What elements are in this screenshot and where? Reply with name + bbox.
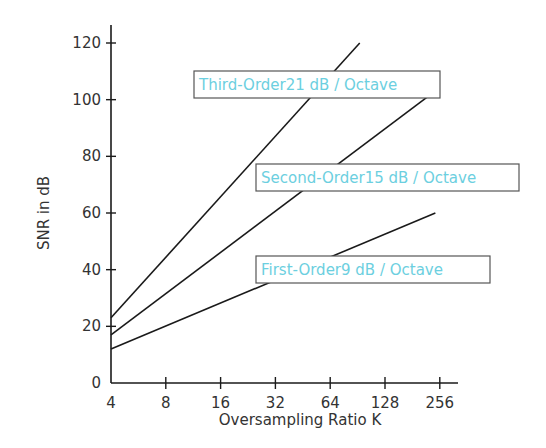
y-tick-label: 100: [72, 91, 101, 109]
y-axis-label: SNR in dB: [35, 176, 53, 250]
series-line-second-order: [111, 97, 427, 335]
x-tick-label: 256: [425, 394, 454, 412]
annotations: Third-Order21 dB / OctaveSecond-Order15 …: [194, 71, 519, 283]
annotation-text-third-order: Third-Order21 dB / Octave: [198, 76, 397, 94]
x-axis-label: Oversampling Ratio K: [219, 411, 383, 429]
x-tick-label: 128: [371, 394, 400, 412]
y-tick-label: 40: [82, 261, 101, 279]
y-tick-label: 80: [82, 147, 101, 165]
x-tick-label: 8: [161, 394, 171, 412]
annotation-text-first-order: First-Order9 dB / Octave: [261, 261, 443, 279]
y-tick-label: 120: [72, 34, 101, 52]
y-tick-label: 20: [82, 317, 101, 335]
y-tick-label: 0: [91, 374, 101, 392]
annotation-text-second-order: Second-Order15 dB / Octave: [261, 169, 476, 187]
snr-chart: 02040608010012048163264128256 Third-Orde…: [0, 0, 546, 448]
y-tick-label: 60: [82, 204, 101, 222]
x-tick-label: 4: [106, 394, 116, 412]
x-tick-label: 32: [266, 394, 285, 412]
x-tick-label: 64: [321, 394, 340, 412]
x-tick-label: 16: [211, 394, 230, 412]
